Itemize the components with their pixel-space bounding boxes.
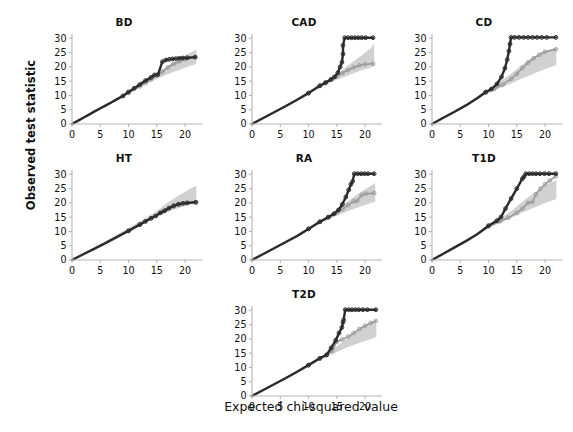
y-tick-label: 25 xyxy=(234,319,246,330)
y-tick-label: 25 xyxy=(234,183,246,194)
plot-area-cad: 05101520253005101520 xyxy=(220,30,388,144)
qq-plot-figure: Observed test statistic BD 0510152025300… xyxy=(0,0,573,432)
panel-title-ra: RA xyxy=(220,152,388,164)
x-tick-label: 15 xyxy=(151,129,163,140)
x-tick-label: 5 xyxy=(277,129,283,140)
x-tick-label: 20 xyxy=(539,265,551,276)
confidence-band xyxy=(252,44,374,124)
panel-title-cad: CAD xyxy=(220,16,388,28)
y-tick-label: 10 xyxy=(234,362,246,373)
dark-series-line xyxy=(432,174,556,260)
x-tick-label: 20 xyxy=(179,129,191,140)
x-tick-label: 15 xyxy=(511,129,523,140)
x-tick-label: 10 xyxy=(482,265,494,276)
x-tick-label: 10 xyxy=(302,129,314,140)
x-tick-label: 10 xyxy=(302,265,314,276)
x-tick-label: 5 xyxy=(97,265,103,276)
x-tick-label: 5 xyxy=(457,129,463,140)
panel-ht: HT 05101520253005101520 xyxy=(40,152,208,280)
y-tick-label: 25 xyxy=(414,47,426,58)
y-tick-label: 0 xyxy=(240,118,246,129)
dark-series-line xyxy=(252,310,376,396)
x-tick-label: 0 xyxy=(249,129,255,140)
y-tick-label: 20 xyxy=(234,333,246,344)
y-tick-label: 15 xyxy=(54,212,66,223)
panel-title-bd: BD xyxy=(40,16,208,28)
qq-plot-svg: 05101520253005101520 xyxy=(40,30,208,144)
y-tick-label: 30 xyxy=(234,33,246,44)
panel-title-ht: HT xyxy=(40,152,208,164)
panel-bd: BD 05101520253005101520 xyxy=(40,16,208,144)
y-tick-label: 20 xyxy=(234,61,246,72)
y-tick-label: 30 xyxy=(54,169,66,180)
y-tick-label: 25 xyxy=(414,183,426,194)
y-tick-label: 10 xyxy=(414,226,426,237)
y-tick-label: 5 xyxy=(60,240,66,251)
x-tick-label: 15 xyxy=(331,129,343,140)
panel-title-cd: CD xyxy=(400,16,568,28)
y-tick-label: 0 xyxy=(60,254,66,265)
x-tick-label: 0 xyxy=(249,265,255,276)
panel-t2d: T2D 05101520253005101520 xyxy=(220,288,388,416)
y-tick-label: 15 xyxy=(54,76,66,87)
y-tick-label: 20 xyxy=(54,61,66,72)
y-tick-label: 5 xyxy=(240,240,246,251)
y-tick-label: 30 xyxy=(234,305,246,316)
x-tick-label: 10 xyxy=(122,265,134,276)
x-tick-label: 20 xyxy=(359,129,371,140)
panel-ra: RA 05101520253005101520 xyxy=(220,152,388,280)
qq-plot-svg: 05101520253005101520 xyxy=(40,166,208,280)
y-tick-label: 20 xyxy=(414,61,426,72)
plot-area-cd: 05101520253005101520 xyxy=(400,30,568,144)
y-tick-label: 15 xyxy=(414,212,426,223)
x-tick-label: 5 xyxy=(457,265,463,276)
plot-area-ht: 05101520253005101520 xyxy=(40,166,208,280)
y-tick-label: 5 xyxy=(420,104,426,115)
panel-title-t2d: T2D xyxy=(220,288,388,300)
y-tick-label: 0 xyxy=(420,254,426,265)
light-series-line xyxy=(432,176,556,260)
x-tick-label: 15 xyxy=(151,265,163,276)
panel-t1d: T1D 05101520253005101520 xyxy=(400,152,568,280)
y-tick-label: 5 xyxy=(240,104,246,115)
y-tick-label: 15 xyxy=(234,212,246,223)
y-tick-label: 5 xyxy=(240,376,246,387)
y-tick-label: 10 xyxy=(234,90,246,101)
y-tick-label: 15 xyxy=(414,76,426,87)
confidence-band xyxy=(72,186,196,260)
y-tick-label: 10 xyxy=(234,226,246,237)
dark-series-line xyxy=(72,202,196,260)
y-tick-label: 30 xyxy=(414,169,426,180)
x-tick-label: 10 xyxy=(482,129,494,140)
y-tick-label: 25 xyxy=(234,47,246,58)
panel-title-t1d: T1D xyxy=(400,152,568,164)
x-tick-label: 0 xyxy=(69,265,75,276)
x-tick-label: 20 xyxy=(359,265,371,276)
x-tick-label: 0 xyxy=(429,265,435,276)
dark-series-line xyxy=(252,38,373,124)
x-tick-label: 5 xyxy=(97,129,103,140)
x-tick-label: 15 xyxy=(511,265,523,276)
x-tick-label: 5 xyxy=(277,265,283,276)
x-axis-label: Expected chi-squared value xyxy=(196,399,426,414)
x-tick-label: 15 xyxy=(331,265,343,276)
dark-series-line xyxy=(252,174,374,260)
x-tick-label: 20 xyxy=(539,129,551,140)
y-tick-label: 15 xyxy=(234,348,246,359)
panel-cd: CD 05101520253005101520 xyxy=(400,16,568,144)
plot-area-ra: 05101520253005101520 xyxy=(220,166,388,280)
x-tick-label: 0 xyxy=(429,129,435,140)
y-tick-label: 30 xyxy=(414,33,426,44)
y-tick-label: 25 xyxy=(54,47,66,58)
plot-area-t1d: 05101520253005101520 xyxy=(400,166,568,280)
y-tick-label: 30 xyxy=(54,33,66,44)
y-tick-label: 0 xyxy=(240,254,246,265)
y-tick-label: 20 xyxy=(414,197,426,208)
y-tick-label: 25 xyxy=(54,183,66,194)
qq-plot-svg: 05101520253005101520 xyxy=(400,30,568,144)
y-tick-label: 30 xyxy=(234,169,246,180)
qq-plot-svg: 05101520253005101520 xyxy=(220,30,388,144)
x-tick-label: 20 xyxy=(179,265,191,276)
qq-plot-svg: 05101520253005101520 xyxy=(400,166,568,280)
x-tick-label: 10 xyxy=(122,129,134,140)
